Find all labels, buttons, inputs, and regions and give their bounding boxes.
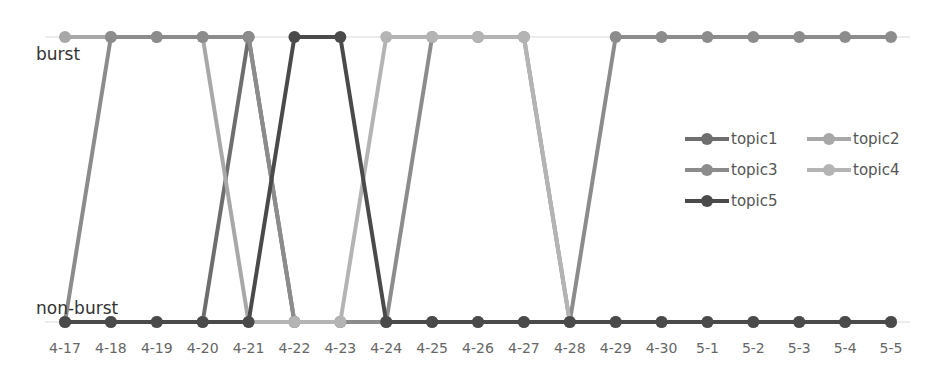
data-point [564, 316, 576, 328]
legend-label: topic2 [853, 130, 900, 148]
x-tick-label: 4-29 [600, 340, 632, 356]
x-tick-label: 4-26 [462, 340, 494, 356]
x-tick-label: 4-21 [233, 340, 265, 356]
data-point [426, 316, 438, 328]
data-point [610, 31, 622, 43]
x-tick-label: 4-23 [324, 340, 356, 356]
x-tick-label: 4-18 [95, 340, 127, 356]
data-point [334, 31, 346, 43]
legend-item-topic3: topic3 [685, 161, 778, 179]
legend-marker-icon [685, 163, 729, 177]
data-point [793, 316, 805, 328]
legend-item-topic5: topic5 [685, 192, 778, 210]
y-label-burst: burst [36, 44, 80, 64]
x-tick-label: 4-25 [416, 340, 448, 356]
data-point [151, 316, 163, 328]
x-tick-label: 4-22 [279, 340, 311, 356]
x-tick-label: 4-17 [49, 340, 81, 356]
x-tick-label: 5-3 [788, 340, 811, 356]
data-point [885, 316, 897, 328]
legend-marker-icon [685, 132, 729, 146]
data-point [334, 316, 346, 328]
data-point [243, 316, 255, 328]
x-tick-label: 5-5 [880, 340, 903, 356]
data-point [793, 31, 805, 43]
data-point [518, 31, 530, 43]
x-tick-label: 4-28 [554, 340, 586, 356]
legend-item-topic1: topic1 [685, 130, 778, 148]
data-point [656, 31, 668, 43]
legend-marker-icon [807, 163, 851, 177]
y-label-nonburst: non-burst [36, 298, 118, 318]
legend-label: topic4 [853, 161, 900, 179]
x-tick-label: 4-19 [141, 340, 173, 356]
series-topic1 [59, 31, 897, 328]
series-topic2 [59, 31, 897, 328]
data-point [197, 316, 209, 328]
data-point [426, 31, 438, 43]
legend-marker-icon [685, 194, 729, 208]
data-point [288, 31, 300, 43]
legend-label: topic3 [731, 161, 778, 179]
series-topic3 [59, 31, 897, 328]
series-topic4 [59, 31, 897, 328]
data-point [747, 31, 759, 43]
data-point [518, 316, 530, 328]
x-tick-label: 4-30 [646, 340, 678, 356]
series-layer [59, 31, 897, 328]
data-point [701, 31, 713, 43]
legend-label: topic5 [731, 192, 778, 210]
data-point [610, 316, 622, 328]
line-chart [0, 0, 945, 372]
data-point [59, 31, 71, 43]
data-point [701, 316, 713, 328]
x-tick-label: 5-4 [834, 340, 857, 356]
legend-marker-icon [807, 132, 851, 146]
series-topic5 [59, 31, 897, 328]
data-point [472, 31, 484, 43]
data-point [151, 31, 163, 43]
data-point [656, 316, 668, 328]
x-tick-label: 4-24 [370, 340, 402, 356]
x-tick-label: 5-1 [696, 340, 719, 356]
legend-label: topic1 [731, 130, 778, 148]
data-point [747, 316, 759, 328]
data-point [472, 316, 484, 328]
data-point [839, 31, 851, 43]
x-tick-label: 4-27 [508, 340, 540, 356]
data-point [288, 316, 300, 328]
data-point [380, 31, 392, 43]
data-point [839, 316, 851, 328]
legend-item-topic2: topic2 [807, 130, 900, 148]
data-point [243, 31, 255, 43]
x-tick-label: 4-20 [187, 340, 219, 356]
data-point [885, 31, 897, 43]
data-point [380, 316, 392, 328]
data-point [197, 31, 209, 43]
data-point [105, 31, 117, 43]
legend-item-topic4: topic4 [807, 161, 900, 179]
x-tick-label: 5-2 [742, 340, 765, 356]
